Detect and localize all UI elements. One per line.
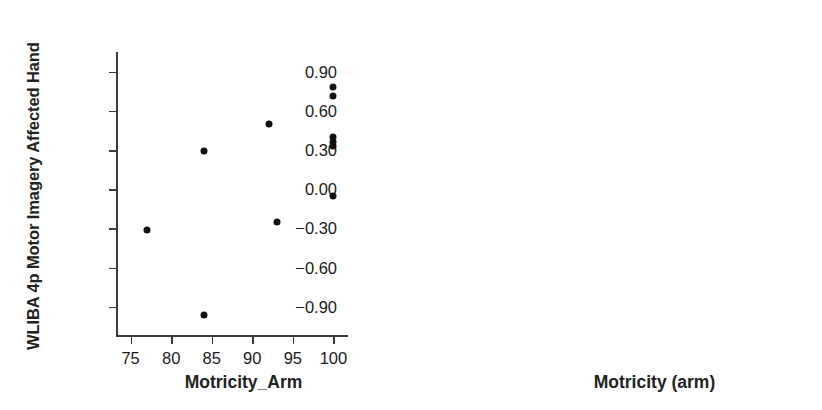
panel-left: WLIBA 4p Motor Imagery Affected Hand 0.9… [0, 0, 411, 410]
y-axis-tick [109, 307, 116, 309]
data-point [200, 148, 207, 155]
x-axis-title-left: Motricity_Arm [0, 372, 449, 393]
y-axis-tick-label: 0.60 [305, 101, 337, 120]
y-axis-tick [109, 268, 116, 270]
x-axis-tick-label: 80 [162, 349, 180, 368]
x-axis-tick-label: 85 [203, 349, 221, 368]
data-point [200, 311, 207, 318]
x-axis-tick [252, 337, 254, 344]
y-axis-line-left [116, 52, 118, 337]
y-axis-tick [109, 111, 116, 113]
x-axis-title-right: Motricity (arm) [411, 372, 822, 393]
data-point [265, 120, 272, 127]
figure-scatter-pair: WLIBA 4p Motor Imagery Affected Hand 0.9… [0, 0, 822, 410]
y-axis-tick [109, 72, 116, 74]
x-axis-tick-label: 100 [320, 349, 348, 368]
data-point [273, 218, 280, 225]
data-point [330, 84, 337, 91]
data-point [143, 226, 150, 233]
y-axis-tick-label: 0.90 [305, 62, 337, 81]
data-point [330, 192, 337, 199]
panel-right: % Signal Change 1.200.900.600.300.007580… [411, 0, 822, 410]
x-axis-tick [333, 337, 335, 344]
x-axis-tick [293, 337, 295, 344]
y-axis-title-left: WLIBA 4p Motor Imagery Affected Hand [24, 42, 43, 350]
y-axis-tick-label: −0.60 [295, 258, 337, 277]
x-axis-tick-label: 75 [121, 349, 139, 368]
x-axis-tick [171, 337, 173, 344]
y-axis-tick [109, 228, 116, 230]
x-axis-tick [212, 337, 214, 344]
y-axis-tick-label: −0.30 [295, 219, 337, 238]
plot-area-left: 0.900.600.300.00−0.30−0.60−0.90758085909… [116, 52, 348, 337]
data-point [330, 143, 337, 150]
x-axis-tick-label: 90 [243, 349, 261, 368]
x-axis-tick [131, 337, 133, 344]
data-point [330, 93, 337, 100]
x-axis-tick-label: 95 [284, 349, 302, 368]
x-axis-line-left [116, 335, 348, 337]
y-axis-tick [109, 150, 116, 152]
y-axis-tick-label: −0.90 [295, 297, 337, 316]
y-axis-tick [109, 189, 116, 191]
